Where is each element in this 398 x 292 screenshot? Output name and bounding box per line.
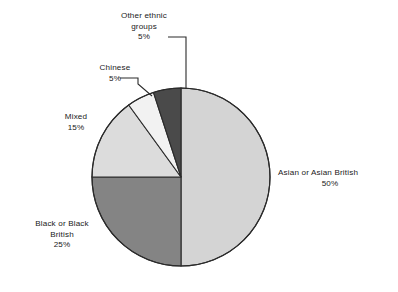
slice-label-mixed-line1: Mixed <box>43 112 109 123</box>
slice-label-other-ethnic-groups: Other ethnic groups 5% <box>96 11 192 43</box>
slice-label-chinese-percent: 5% <box>74 74 156 85</box>
pie-chart-figure: Other ethnic groups 5% Chinese 5% Mixed … <box>0 0 398 292</box>
slice-label-chinese-line1: Chinese <box>74 63 156 74</box>
slice-label-other-percent: 5% <box>96 32 192 43</box>
slice-label-mixed-percent: 15% <box>43 123 109 134</box>
slice-label-black-percent: 25% <box>10 240 114 251</box>
slice-label-black-or-black-british: Black or Black British 25% <box>10 219 114 251</box>
leader-line-other-ethnic-groups <box>168 37 186 89</box>
slice-label-chinese: Chinese 5% <box>74 63 156 84</box>
slice-label-mixed: Mixed 15% <box>43 112 109 133</box>
slice-label-black-line2: British <box>10 230 114 241</box>
slice-label-black-line1: Black or Black <box>10 219 114 230</box>
slice-label-asian-or-asian-british: Asian or Asian British 50% <box>278 168 394 189</box>
slice-label-asian-line1: Asian or Asian British <box>278 168 394 179</box>
slice-label-other-line2: groups <box>96 22 192 33</box>
pie-slice-asian-or-asian-british <box>181 88 270 266</box>
slice-label-asian-percent: 50% <box>278 179 382 190</box>
slice-label-other-line1: Other ethnic <box>96 11 192 22</box>
